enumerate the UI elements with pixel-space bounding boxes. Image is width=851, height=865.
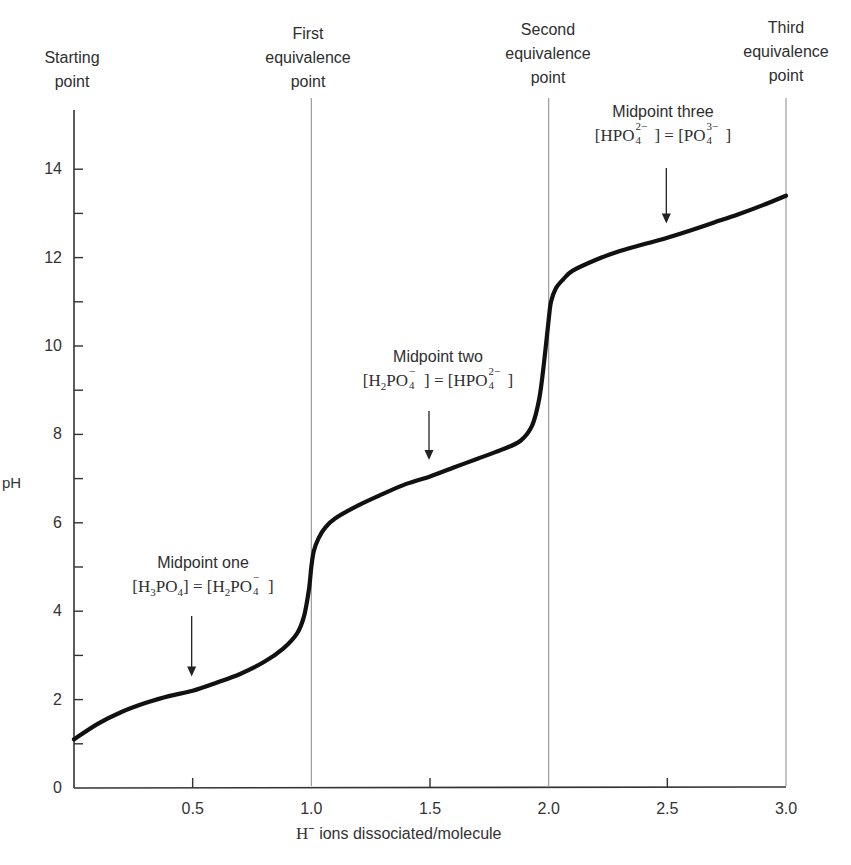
y-tick-label: 10 [22,337,62,355]
y-tick-label: 6 [22,514,62,532]
y-tick-label: 14 [22,160,62,178]
x-tick-label: 1.5 [405,800,455,818]
y-tick-label: 12 [22,249,62,267]
midpoint-two-equation: [H2PO−4] = [HPO2−4] [318,369,558,398]
label-line: point [248,70,368,94]
x-axis-label-h: H [296,824,308,843]
annotation-midpoint-three: Midpoint three [HPO2−4] = [PO3−4] [548,100,778,148]
label-first-equivalence-point: First equivalence point [248,22,368,94]
y-tick-label: 0 [22,779,62,797]
x-tick-label: 1.0 [286,800,336,818]
label-line: equivalence [726,40,846,64]
y-tick-label: 8 [22,425,62,443]
label-line: Starting [22,46,122,70]
midpoint-two-title: Midpoint two [318,345,558,369]
label-line: Third [726,16,846,40]
annotation-midpoint-one: Midpoint one [H3PO4] = [H2PO−4] [88,551,318,604]
arrow-head-icon [662,214,671,224]
label-starting-point: Starting point [22,46,122,94]
equivalence-lines [311,98,786,786]
arrow-head-icon [187,667,196,677]
label-second-equivalence-point: Second equivalence point [488,18,608,90]
label-line: point [22,70,122,94]
x-tick-label: 2.0 [524,800,574,818]
annotation-midpoint-two: Midpoint two [H2PO−4] = [HPO2−4] [318,345,558,398]
y-axis-label: pH [2,474,21,491]
midpoint-three-title: Midpoint three [548,100,778,124]
midpoint-one-equation: [H3PO4] = [H2PO−4] [88,575,318,604]
arrow-head-icon [425,450,434,460]
midpoint-three-equation: [HPO2−4] = [PO3−4] [548,124,778,148]
label-line: point [488,66,608,90]
y-tick-label: 2 [22,691,62,709]
label-line: equivalence [248,46,368,70]
x-axis-label: H− ions dissociated/molecule [296,822,501,844]
midpoint-one-title: Midpoint one [88,551,318,575]
y-tick-label: 4 [22,602,62,620]
label-line: point [726,64,846,88]
label-line: Second [488,18,608,42]
label-line: First [248,22,368,46]
label-line: equivalence [488,42,608,66]
x-tick-label: 2.5 [642,800,692,818]
x-axis-label-text: ions dissociated/molecule [315,825,502,842]
axes [74,110,786,788]
x-tick-label: 3.0 [761,800,811,818]
titration-curve [74,196,786,740]
x-tick-label: 0.5 [168,800,218,818]
label-third-equivalence-point: Third equivalence point [726,16,846,88]
